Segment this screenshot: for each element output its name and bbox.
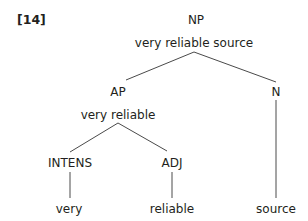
node-intens-category: INTENS [48,156,92,170]
edge-ap-adj [118,123,167,151]
leaf-reliable: reliable [150,202,194,216]
node-adj-category: ADJ [162,156,183,170]
node-np-category: NP [188,13,204,27]
leaf-source: source [256,202,296,216]
edge-ap-intens [70,123,118,152]
node-ap-category: AP [110,85,125,99]
leaf-very: very [56,202,83,216]
node-np-phrase: very reliable source [135,36,253,50]
node-n-category: N [272,85,281,99]
edge-np-n [194,52,276,82]
node-ap-phrase: very reliable [81,108,156,122]
edge-np-ap [126,52,194,80]
